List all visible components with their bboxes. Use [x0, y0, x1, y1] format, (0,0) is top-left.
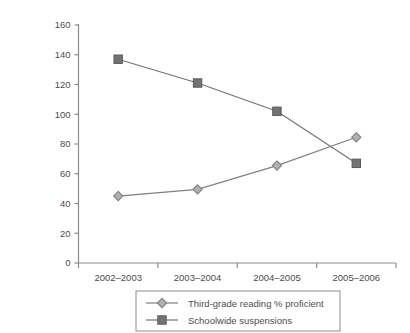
- x-axis-ticks: 2002–20032003–20042004–20052005–2006: [79, 263, 397, 283]
- y-axis-tick-label: 100: [55, 109, 71, 120]
- series-1: [114, 133, 361, 201]
- data-point-square: [114, 55, 122, 63]
- series-line: [118, 137, 356, 196]
- y-axis-tick-label: 160: [55, 19, 71, 30]
- x-axis-category-label: 2005–2006: [333, 272, 381, 283]
- data-point-square: [193, 79, 201, 87]
- y-axis-tick-label: 80: [60, 138, 71, 149]
- data-point-diamond: [272, 161, 281, 170]
- y-axis-tick-label: 20: [60, 228, 71, 239]
- y-axis-tick-label: 120: [55, 79, 71, 90]
- legend-entry-label: Third-grade reading % proficient: [188, 298, 324, 309]
- y-axis-ticks: 020406080100120140160: [55, 19, 79, 268]
- y-axis-tick-label: 0: [65, 257, 70, 268]
- data-point-square: [273, 107, 281, 115]
- data-point-diamond: [114, 191, 123, 200]
- series-line: [118, 59, 356, 163]
- x-axis-category-label: 2003–2004: [174, 272, 222, 283]
- data-point-diamond: [352, 133, 361, 142]
- series-2: [114, 55, 361, 168]
- data-point-diamond: [193, 185, 202, 194]
- legend-entry-label: Schoolwide suspensions: [188, 315, 292, 326]
- x-axis-category-label: 2004–2005: [253, 272, 301, 283]
- legend-square-icon: [158, 316, 166, 324]
- y-axis-tick-label: 60: [60, 168, 71, 179]
- y-axis-tick-label: 140: [55, 49, 71, 60]
- x-axis-category-label: 2002–2003: [94, 272, 142, 283]
- chart-canvas: 0204060801001201401602002–20032003–20042…: [0, 0, 410, 333]
- y-axis-tick-label: 40: [60, 198, 71, 209]
- chart-legend: Third-grade reading % proficientSchoolwi…: [136, 291, 340, 331]
- data-point-square: [352, 159, 360, 167]
- line-chart: 0204060801001201401602002–20032003–20042…: [0, 0, 410, 333]
